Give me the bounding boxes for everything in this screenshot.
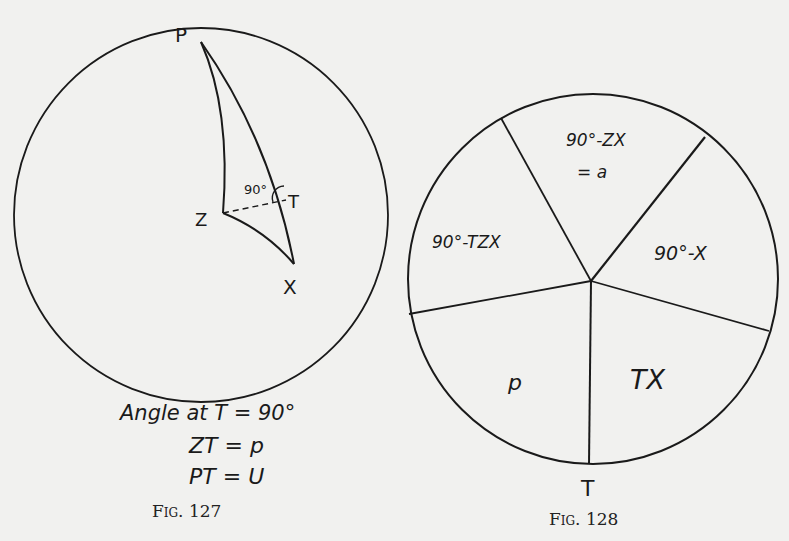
equation-angle: Angle at T = 90° <box>118 401 295 425</box>
segment-tx: TX <box>630 364 665 395</box>
arc-px <box>201 42 294 264</box>
segment-90-tzx: 90°-TZX <box>432 232 501 252</box>
segment-equals-a: = a <box>577 162 607 182</box>
equation-pt: PT = U <box>189 464 264 489</box>
label-p: P <box>175 23 187 47</box>
label-t-bottom: T <box>580 476 595 501</box>
divider-5 <box>409 281 591 314</box>
equation-zt: ZT = p <box>188 433 264 458</box>
divider-4 <box>589 281 591 464</box>
segment-p: p <box>507 370 522 395</box>
label-z: Z <box>195 209 207 230</box>
segment-90-x: 90°-X <box>654 242 708 264</box>
dashed-zt <box>223 200 286 213</box>
fig127: P Z T X 90° Angle at T = 90° ZT = p PT =… <box>14 23 388 521</box>
arc-pz <box>201 42 225 213</box>
label-t: T <box>287 191 300 212</box>
caption-fig128: Fig. 128 <box>549 509 618 529</box>
label-x: X <box>283 275 297 299</box>
caption-fig127: Fig. 127 <box>152 501 221 521</box>
divider-3 <box>591 281 769 331</box>
angle-90-label: 90° <box>244 182 267 197</box>
segment-90-zx: 90°-ZX <box>566 130 626 150</box>
fig128: 90°-ZX = a 90°-X TX p 90°-TZX T Fig. 128 <box>408 94 778 529</box>
figures-canvas: P Z T X 90° Angle at T = 90° ZT = p PT =… <box>0 0 789 541</box>
